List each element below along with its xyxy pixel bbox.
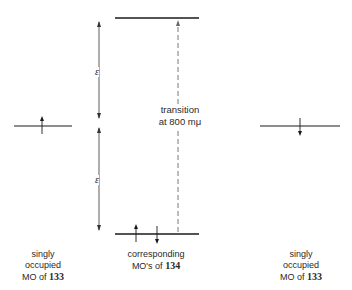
epsilon-lower-label: ε	[95, 175, 99, 185]
transition-label-line1: transition	[156, 104, 204, 116]
caption-prefix: MO of	[280, 272, 305, 282]
caption-line: occupied	[266, 260, 336, 271]
electron-down-arrow-icon	[155, 226, 159, 244]
caption-line: singly	[10, 249, 76, 260]
transition-label: transition at 800 mμ	[156, 104, 204, 128]
compound-number: 134	[165, 260, 180, 271]
caption-line: corresponding	[110, 249, 202, 260]
energy-level-diagram	[0, 0, 352, 290]
center-caption: corresponding MO's of 134	[110, 249, 202, 272]
left-somo-caption: singly occupied MO of 133	[10, 249, 76, 283]
compound-number: 133	[307, 271, 322, 282]
caption-prefix: MO's of	[132, 261, 163, 271]
electron-up-arrow-icon	[40, 116, 44, 134]
compound-number: 133	[49, 271, 64, 282]
caption-line: MO's of 134	[110, 260, 202, 272]
electron-down-arrow-icon	[298, 118, 302, 136]
transition-label-line2: at 800 mμ	[156, 116, 204, 128]
caption-line: MO of 133	[266, 271, 336, 283]
caption-line: singly	[266, 249, 336, 260]
epsilon-upper-label: ε	[95, 67, 99, 77]
caption-line: MO of 133	[10, 271, 76, 283]
right-somo-caption: singly occupied MO of 133	[266, 249, 336, 283]
caption-prefix: MO of	[22, 272, 47, 282]
caption-line: occupied	[10, 260, 76, 271]
electron-up-arrow-icon	[134, 224, 138, 242]
